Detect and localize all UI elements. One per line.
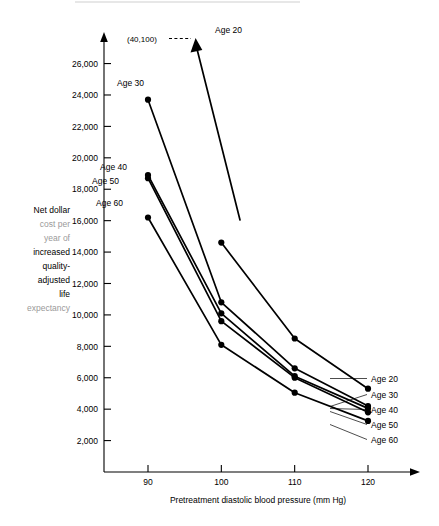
y-tick-label: 24,000 — [72, 90, 98, 100]
legend-label-age-20: Age 20 — [371, 374, 398, 384]
age20-offscale-arrow — [191, 38, 241, 220]
data-point-age-50 — [218, 318, 224, 324]
inline-label-age-60: Age 60 — [96, 198, 123, 208]
data-point-age-30 — [292, 365, 298, 371]
y-tick-label: 20,000 — [72, 153, 98, 163]
x-tick-label: 90 — [143, 477, 153, 487]
data-point-age-60 — [145, 214, 151, 220]
y-tick-label: 14,000 — [72, 247, 98, 257]
y-tick-group: 2,0004,0006,0008,00010,00012,00014,00016… — [72, 59, 111, 446]
inline-label-age-20: Age 20 — [215, 25, 242, 35]
y-axis-title-line-2: cost per — [40, 219, 70, 229]
y-axis-arrowhead — [100, 32, 108, 42]
data-point-age-50 — [292, 375, 298, 381]
inline-label-age-50: Age 50 — [92, 176, 119, 186]
age20-arrowhead — [191, 38, 203, 53]
inline-series-labels: Age 20Age 30Age 40Age 50Age 60 — [92, 25, 242, 208]
series-line-age-30 — [148, 100, 368, 406]
annotation-40-100: (40,100) — [127, 35, 157, 44]
age20-rising-segment — [197, 49, 240, 220]
y-axis-title-line-6: adjusted — [38, 275, 70, 285]
legend-label-age-30: Age 30 — [371, 390, 398, 400]
y-axis-title-line-1: Net dollar — [34, 205, 71, 215]
data-point-age-60 — [218, 342, 224, 348]
y-axis-title: Net dollar cost per year of increased qu… — [27, 205, 71, 313]
data-series-group — [145, 97, 371, 424]
y-tick-label: 22,000 — [72, 122, 98, 132]
y-axis-title-line-3: year of — [44, 233, 71, 243]
inline-label-age-30: Age 30 — [117, 78, 144, 88]
x-tick-group: 90100110120 — [143, 465, 375, 487]
x-axis-arrowhead — [410, 468, 420, 476]
y-tick-label: 4,000 — [77, 404, 99, 414]
x-tick-label: 110 — [288, 477, 302, 487]
y-axis-title-line-8: expectancy — [27, 303, 71, 313]
data-point-age-20 — [218, 240, 224, 246]
inline-label-age-40: Age 40 — [100, 162, 127, 172]
x-axis — [104, 468, 420, 476]
y-axis-title-line-4: increased — [33, 247, 70, 257]
series-line-age-50 — [148, 178, 368, 412]
legend-label-age-60: Age 60 — [371, 435, 398, 445]
y-tick-label: 16,000 — [72, 216, 98, 226]
y-tick-label: 8,000 — [77, 342, 99, 352]
data-point-age-50 — [145, 175, 151, 181]
y-tick-label: 6,000 — [77, 373, 99, 383]
legend-label-age-40: Age 40 — [371, 405, 398, 415]
data-point-age-30 — [218, 299, 224, 305]
y-tick-label: 10,000 — [72, 310, 98, 320]
chart-svg: 2,0004,0006,0008,00010,00012,00014,00016… — [0, 0, 439, 526]
data-point-age-30 — [145, 97, 151, 103]
series-line-age-60 — [148, 218, 368, 421]
x-tick-label: 100 — [214, 477, 228, 487]
y-tick-label: 12,000 — [72, 279, 98, 289]
legend-label-age-50: Age 50 — [371, 420, 398, 430]
y-axis-title-line-5: quality- — [43, 261, 71, 271]
y-axis-title-line-7: life — [59, 289, 70, 299]
y-tick-label: 26,000 — [72, 59, 98, 69]
data-point-age-20 — [292, 335, 298, 341]
legend-leader-age-60 — [330, 425, 367, 440]
y-tick-label: 2,000 — [77, 436, 99, 446]
x-axis-title: Pretreatment diastolic blood pressure (m… — [170, 495, 346, 505]
x-tick-label: 120 — [361, 477, 375, 487]
data-point-age-60 — [292, 390, 298, 396]
